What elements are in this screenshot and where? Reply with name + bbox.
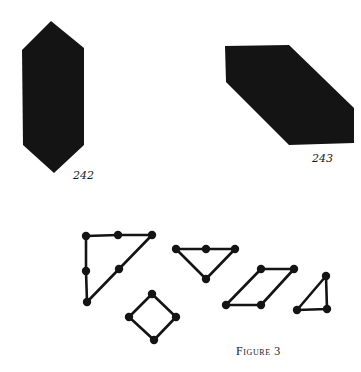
graph-node-dot: [323, 305, 331, 313]
graph-node-dot: [82, 267, 90, 275]
figure-canvas: [0, 0, 361, 372]
hexagon-shape-242: [22, 21, 84, 173]
graph-node-dot: [322, 272, 330, 280]
graph-node-dot: [115, 265, 123, 273]
inverted-triangle-graph: [172, 245, 239, 283]
graph-node-dot: [290, 265, 298, 273]
graph-node-dot: [172, 245, 180, 253]
figure-stage: 242 243 Figure 3: [0, 0, 361, 372]
graph-edges: [129, 294, 176, 340]
graph-node-dot: [231, 245, 239, 253]
graph-node-dot: [114, 231, 122, 239]
graph-node-dot: [148, 290, 156, 298]
graph-edges: [297, 276, 327, 310]
figure-caption: Figure 3: [236, 345, 281, 357]
graph-node-dot: [293, 306, 301, 314]
diamond-graph: [125, 290, 180, 344]
graph-node-dot: [82, 232, 90, 240]
graph-node-dot: [172, 313, 180, 321]
graph-node-dot: [257, 265, 265, 273]
graph-node-dot: [150, 336, 158, 344]
figure-label-242: 242: [73, 170, 94, 181]
right-triangle-graph: [82, 231, 156, 306]
graph-node-dot: [83, 298, 91, 306]
graph-node-dot: [222, 301, 230, 309]
small-triangle-graph: [293, 272, 331, 314]
figure-label-243: 243: [312, 153, 333, 164]
hexagon-shape-243: [225, 45, 354, 145]
graph-node-dot: [202, 275, 210, 283]
graph-node-dot: [148, 231, 156, 239]
graph-node-dot: [125, 313, 133, 321]
graph-edges: [176, 249, 235, 279]
graph-edges: [226, 269, 294, 305]
parallelogram-graph: [222, 265, 298, 309]
dot-graphs-group: [82, 231, 331, 344]
graph-node-dot: [202, 245, 210, 253]
graph-node-dot: [257, 301, 265, 309]
